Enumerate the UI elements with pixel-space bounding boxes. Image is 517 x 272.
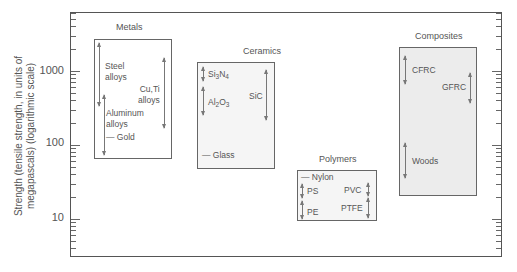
gold-label: — Gold: [106, 132, 135, 143]
axis-tick: [71, 71, 80, 72]
axis-tick: [496, 82, 501, 83]
axis-tick: [496, 235, 501, 236]
y-tick-1000: 1000: [28, 64, 64, 76]
axis-tick: [71, 156, 76, 157]
axis-tick: [71, 87, 76, 88]
pe-range-arrow: [302, 201, 303, 219]
axis-tick: [492, 219, 501, 220]
axis-tick: [496, 74, 501, 75]
axis-tick: [496, 19, 501, 20]
axis-tick: [71, 19, 76, 20]
ps-range-arrow: [302, 184, 303, 198]
sic-range-arrow: [266, 70, 267, 120]
al2o3-label: Al2O3: [208, 97, 229, 110]
axis-tick: [496, 13, 501, 14]
axis-tick: [71, 248, 76, 249]
aluminum-range-arrow: [104, 95, 105, 155]
axis-tick: [71, 167, 76, 168]
axis-tick: [496, 93, 501, 94]
axis-tick: [496, 230, 501, 231]
axis-tick: [71, 184, 76, 185]
axis-tick: [496, 87, 501, 88]
axis-tick: [71, 36, 76, 37]
axis-tick: [496, 49, 501, 50]
axis-tick: [71, 145, 80, 146]
ceramics-title: Ceramics: [243, 46, 281, 56]
gfrc-range-arrow: [470, 73, 471, 103]
pe-label: PE: [307, 207, 318, 218]
axis-tick: [496, 100, 501, 101]
axis-tick: [71, 230, 76, 231]
axis-tick: [496, 222, 501, 223]
axis-tick: [71, 26, 76, 27]
glass-label: — Glass: [202, 150, 235, 161]
axis-tick: [496, 110, 501, 111]
axis-tick: [71, 226, 76, 227]
axis-tick: [496, 167, 501, 168]
axis-tick: [496, 123, 501, 124]
axis-tick: [71, 82, 76, 83]
axis-tick: [496, 248, 501, 249]
gfrc-label: GFRC: [442, 82, 466, 93]
axis-tick: [71, 100, 76, 101]
pvc-label: PVC: [344, 185, 361, 196]
ptfe-range-arrow: [368, 198, 369, 218]
aluminum-label: Aluminumalloys: [106, 108, 144, 130]
cuti-range-arrow: [164, 58, 165, 128]
axis-tick: [71, 49, 76, 50]
metals-title: Metals: [116, 22, 143, 32]
axis-tick: [71, 235, 76, 236]
axis-tick: [71, 74, 76, 75]
axis-tick: [71, 197, 76, 198]
axis-tick: [492, 145, 501, 146]
pvc-range-arrow: [368, 183, 369, 196]
axis-tick: [496, 156, 501, 157]
axis-tick: [71, 123, 76, 124]
axis-tick: [496, 26, 501, 27]
si3n4-range-arrow: [203, 67, 204, 81]
composites-box: [399, 47, 477, 196]
axis-tick: [71, 110, 76, 111]
cfrc-range-arrow: [405, 56, 406, 84]
axis-tick: [496, 174, 501, 175]
axis-tick: [496, 226, 501, 227]
y-tick-10: 10: [28, 211, 64, 223]
axis-tick: [492, 71, 501, 72]
axis-tick: [71, 13, 76, 14]
axis-tick: [71, 93, 76, 94]
ps-label: PS: [307, 186, 318, 197]
axis-tick: [71, 219, 80, 220]
axis-tick: [71, 222, 76, 223]
cfrc-label: CFRC: [412, 65, 436, 76]
axis-tick: [71, 148, 76, 149]
axis-tick: [496, 241, 501, 242]
axis-tick: [71, 174, 76, 175]
polymers-title: Polymers: [319, 154, 357, 164]
ptfe-label: PTFE: [341, 203, 363, 214]
axis-tick: [496, 78, 501, 79]
axis-tick: [71, 152, 76, 153]
axis-tick: [71, 161, 76, 162]
woods-label: Woods: [412, 156, 438, 167]
nylon-label: — Nylon: [301, 172, 334, 183]
al2o3-range-arrow: [203, 87, 204, 115]
axis-tick: [496, 197, 501, 198]
axis-tick: [71, 78, 76, 79]
axis-tick: [496, 152, 501, 153]
steel-label: Steelalloys: [105, 61, 127, 83]
cuti-label: Cu,Tialloys: [138, 84, 160, 106]
si3n4-label: Si3N4: [208, 69, 229, 82]
sic-label: SiC: [249, 91, 263, 102]
steel-range-arrow: [99, 43, 100, 106]
woods-range-arrow: [405, 143, 406, 178]
axis-tick: [496, 36, 501, 37]
axis-tick: [496, 148, 501, 149]
composites-title: Composites: [415, 31, 463, 41]
axis-tick: [496, 161, 501, 162]
axis-tick: [496, 184, 501, 185]
y-tick-100: 100: [28, 136, 64, 148]
axis-tick: [71, 241, 76, 242]
